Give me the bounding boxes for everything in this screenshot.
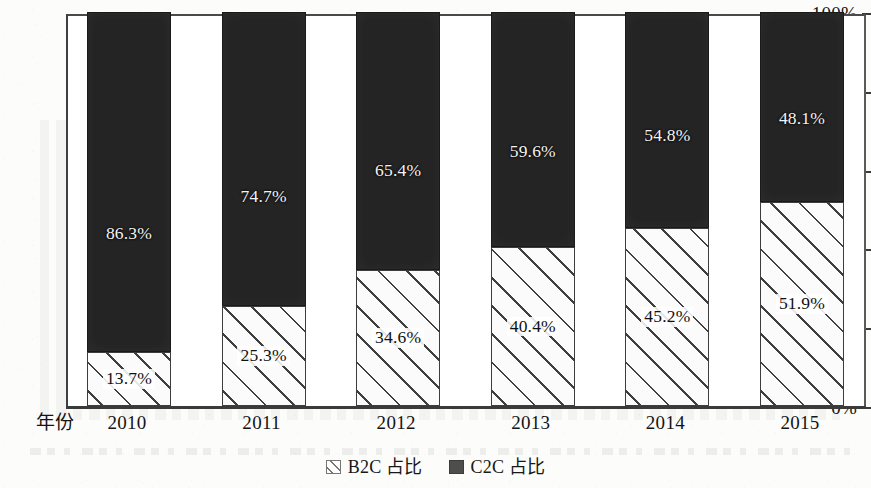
- solid-swatch-icon: [449, 460, 464, 474]
- x-axis-line: [66, 406, 866, 409]
- bar-group[interactable]: 34.6%65.4%: [356, 12, 440, 406]
- stacked-bar-chart: 0%20%40%60%80%100% 13.7%86.3%25.3%74.7%3…: [0, 0, 871, 488]
- bar-segment-c2c[interactable]: 86.3%: [87, 12, 171, 352]
- bar-value-label: 25.3%: [237, 346, 289, 366]
- bar-segment-b2c[interactable]: 45.2%: [625, 228, 709, 406]
- legend-item[interactable]: C2C 占比: [449, 458, 546, 476]
- bar-segment-c2c[interactable]: 74.7%: [222, 12, 306, 306]
- y-axis-line: [66, 14, 68, 408]
- legend-item[interactable]: B2C 占比: [326, 458, 423, 476]
- bar-segment-b2c[interactable]: 13.7%: [87, 352, 171, 406]
- bar-value-label: 65.4%: [375, 162, 421, 180]
- bar-group[interactable]: 40.4%59.6%: [491, 12, 575, 406]
- bar-segment-b2c[interactable]: 34.6%: [356, 270, 440, 406]
- x-axis-tick-label: 2012: [351, 412, 441, 435]
- bar-value-label: 13.7%: [103, 369, 155, 389]
- legend-label: B2C 占比: [348, 458, 423, 476]
- x-axis-tick-label: 2011: [217, 412, 307, 435]
- bar-segment-c2c[interactable]: 48.1%: [760, 12, 844, 202]
- bar-value-label: 40.4%: [507, 317, 559, 337]
- bar-value-label: 86.3%: [106, 225, 152, 243]
- bar-value-label: 45.2%: [641, 307, 693, 327]
- bar-value-label: 74.7%: [240, 188, 286, 206]
- chart-legend: B2C 占比C2C 占比: [0, 458, 871, 476]
- x-axis-tick-labels: 201020112012201320142015: [0, 412, 871, 444]
- x-axis-tick-label: 2010: [82, 412, 172, 435]
- bar-segment-b2c[interactable]: 25.3%: [222, 306, 306, 406]
- bar-group[interactable]: 25.3%74.7%: [222, 12, 306, 406]
- bar-group[interactable]: 51.9%48.1%: [760, 12, 844, 406]
- x-axis-tick-label: 2015: [755, 412, 845, 435]
- plot-area: 13.7%86.3%25.3%74.7%34.6%65.4%40.4%59.6%…: [66, 14, 866, 408]
- bar-value-label: 59.6%: [510, 143, 556, 161]
- bar-segment-c2c[interactable]: 65.4%: [356, 12, 440, 270]
- hatch-swatch-icon: [326, 460, 341, 474]
- bar-segment-b2c[interactable]: 40.4%: [491, 247, 575, 406]
- bar-group[interactable]: 13.7%86.3%: [87, 12, 171, 406]
- bar-segment-c2c[interactable]: 59.6%: [491, 12, 575, 247]
- x-axis-tick-label: 2013: [486, 412, 576, 435]
- bar-segment-b2c[interactable]: 51.9%: [760, 202, 844, 406]
- bar-value-label: 54.8%: [644, 127, 690, 145]
- legend-label: C2C 占比: [471, 458, 546, 476]
- bar-value-label: 48.1%: [779, 110, 825, 128]
- x-axis-tick-label: 2014: [620, 412, 710, 435]
- bar-value-label: 51.9%: [776, 294, 828, 314]
- bar-segment-c2c[interactable]: 54.8%: [625, 12, 709, 228]
- bar-value-label: 34.6%: [372, 328, 424, 348]
- bar-group[interactable]: 45.2%54.8%: [625, 12, 709, 406]
